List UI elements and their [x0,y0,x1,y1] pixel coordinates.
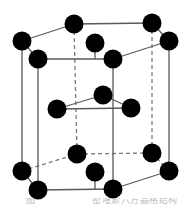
atom-mid-left: interior atom left [48,100,67,119]
atom-top-left: top left corner [13,32,32,51]
atom-top-center: top face center [86,34,105,53]
atom-mid-top: interior atom upper [94,86,113,105]
atom-bot-right: bottom right corner [160,162,179,181]
atom-top-front-right: top front right corner [104,50,123,69]
atom-bot-front-right: bottom front right corner [104,180,123,199]
hcp-unit-cell-diagram: top back left cornertop back right corne… [0,0,190,211]
atom-top-back-right: top back right corner [143,14,162,33]
atom-top-right: top right corner [160,32,179,51]
atom-bot-back-right: bottom back right corner [143,144,162,163]
atom-top-back-left: top back left corner [65,15,84,34]
figure-screenshot: top back left cornertop back right corne… [0,0,190,211]
atom-mid-right: interior atom right [122,99,141,118]
atom-top-front-left: top front left corner [29,50,48,69]
atom-bot-center: bottom face center [86,163,105,182]
atom-bot-front-left: bottom front left corner [29,181,48,200]
atom-bot-left: bottom left corner [13,162,32,181]
atom-bot-back-left: bottom back left corner [68,145,87,164]
